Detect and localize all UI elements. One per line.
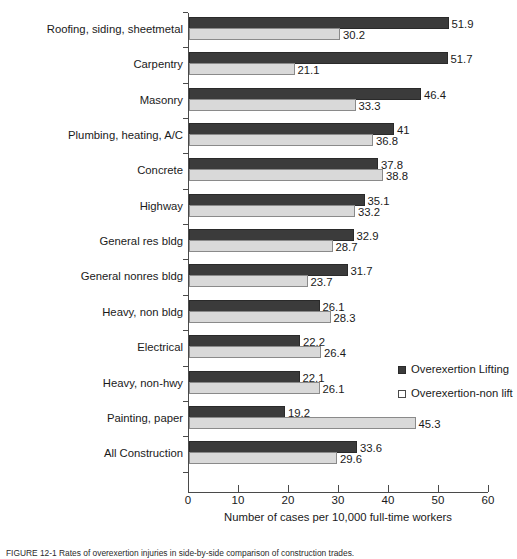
x-axis-tick bbox=[488, 485, 489, 492]
bar-non-lift bbox=[189, 275, 308, 287]
bar-non-lift bbox=[189, 134, 373, 146]
bar-non-lift bbox=[189, 311, 331, 323]
chart-legend: Overexertion Lifting Overexertion-non li… bbox=[398, 363, 513, 411]
bar-value-label: 28.3 bbox=[334, 312, 356, 324]
bar-value-label: 45.3 bbox=[419, 418, 441, 430]
bar-value-label: 36.8 bbox=[376, 135, 398, 147]
bar-non-lift bbox=[189, 205, 355, 217]
y-axis-tick bbox=[183, 330, 188, 331]
y-axis-tick bbox=[183, 83, 188, 84]
category-label: All Construction bbox=[104, 447, 183, 459]
y-axis-tick bbox=[183, 224, 188, 225]
bar-value-label: 26.4 bbox=[324, 347, 346, 359]
x-axis-tick-label: 30 bbox=[332, 494, 345, 506]
category-label: Heavy, non-hwy bbox=[103, 377, 183, 389]
y-axis-tick bbox=[183, 47, 188, 48]
bar-non-lift bbox=[189, 28, 340, 40]
x-axis-tick-label: 20 bbox=[282, 494, 295, 506]
bar-value-label: 26.1 bbox=[323, 383, 345, 395]
bar-value-label: 32.9 bbox=[357, 230, 379, 242]
figure-caption: FIGURE 12-1 Rates of overexertion injuri… bbox=[6, 548, 511, 559]
category-label: General nonres bldg bbox=[81, 270, 183, 282]
bar-non-lift bbox=[189, 169, 383, 181]
bar-value-label: 33.3 bbox=[359, 100, 381, 112]
category-label: Masonry bbox=[140, 94, 183, 106]
bar-value-label: 38.8 bbox=[386, 170, 408, 182]
bar-non-lift bbox=[189, 452, 337, 464]
legend-swatch-dark-icon bbox=[398, 366, 406, 374]
category-label: Painting, paper bbox=[107, 412, 183, 424]
legend-label-non-lift: Overexertion-non lift bbox=[411, 387, 513, 400]
bar-value-label: 51.9 bbox=[452, 18, 474, 30]
bar-value-label: 33.6 bbox=[360, 442, 382, 454]
x-axis-line bbox=[188, 492, 488, 493]
y-axis-tick bbox=[183, 153, 188, 154]
category-label: General res bldg bbox=[99, 235, 183, 247]
category-label: Concrete bbox=[137, 164, 183, 176]
bar-value-label: 21.1 bbox=[298, 64, 320, 76]
y-axis-tick bbox=[183, 366, 188, 367]
category-label: Plumbing, heating, A/C bbox=[68, 129, 183, 141]
x-axis-tick-label: 60 bbox=[482, 494, 495, 506]
x-axis-tick-label: 50 bbox=[432, 494, 445, 506]
legend-label-lifting: Overexertion Lifting bbox=[411, 363, 509, 376]
y-axis-tick bbox=[183, 12, 188, 13]
x-axis-tick-label: 40 bbox=[382, 494, 395, 506]
legend-swatch-light-icon bbox=[398, 390, 406, 398]
x-axis-tick-label: 0 bbox=[185, 494, 191, 506]
y-axis-tick bbox=[183, 118, 188, 119]
y-axis-tick bbox=[183, 189, 188, 190]
x-axis-tick bbox=[438, 485, 439, 492]
y-axis-tick bbox=[183, 401, 188, 402]
x-axis-tick bbox=[288, 485, 289, 492]
x-axis-title: Number of cases per 10,000 full-time wor… bbox=[188, 511, 488, 523]
x-axis-tick bbox=[388, 485, 389, 492]
category-label: Carpentry bbox=[133, 58, 183, 70]
x-axis-tick bbox=[188, 485, 189, 492]
bar-non-lift bbox=[189, 382, 320, 394]
bar-value-label: 29.6 bbox=[340, 453, 362, 465]
category-label: Highway bbox=[140, 200, 183, 212]
bar-value-label: 30.2 bbox=[343, 29, 365, 41]
legend-item-overexertion-non-lift: Overexertion-non lift bbox=[398, 387, 513, 400]
bar-value-label: 41 bbox=[397, 124, 410, 136]
category-label: Electrical bbox=[137, 341, 183, 353]
bar-value-label: 31.7 bbox=[351, 265, 373, 277]
category-label: Roofing, siding, sheetmetal bbox=[47, 23, 183, 35]
bar-non-lift bbox=[189, 346, 321, 358]
x-axis-tick bbox=[338, 485, 339, 492]
x-axis-tick bbox=[238, 485, 239, 492]
x-axis-tick-label: 10 bbox=[232, 494, 245, 506]
figure-container: 0102030405060Roofing, siding, sheetmetal… bbox=[0, 0, 517, 559]
category-label: Heavy, non bldg bbox=[102, 306, 183, 318]
y-axis-tick bbox=[183, 472, 188, 473]
bar-non-lift bbox=[189, 417, 416, 429]
bar-value-label: 51.7 bbox=[451, 53, 473, 65]
bar-value-label: 23.7 bbox=[311, 276, 333, 288]
bar-non-lift bbox=[189, 99, 356, 111]
bar-value-label: 28.7 bbox=[336, 241, 358, 253]
y-axis-tick bbox=[183, 436, 188, 437]
y-axis-tick bbox=[183, 259, 188, 260]
bar-value-label: 33.2 bbox=[358, 206, 380, 218]
bar-non-lift bbox=[189, 63, 295, 75]
bar-value-label: 46.4 bbox=[424, 89, 446, 101]
y-axis-tick bbox=[183, 295, 188, 296]
legend-item-overexertion-lifting: Overexertion Lifting bbox=[398, 363, 513, 376]
bar-non-lift bbox=[189, 240, 333, 252]
bar-chart-plot-area: 0102030405060Roofing, siding, sheetmetal… bbox=[0, 0, 517, 500]
